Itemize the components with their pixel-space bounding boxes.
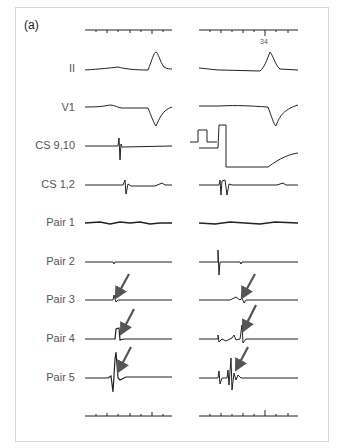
trace-ii-right <box>199 52 298 71</box>
trace-cs12-left <box>85 180 172 194</box>
trace-pair4-right <box>199 325 298 343</box>
arrow-pair3-right <box>244 274 255 294</box>
arrow-pair5-right <box>238 347 248 366</box>
arrow-pair5-left <box>120 347 131 368</box>
trace-pair3-left <box>85 295 172 302</box>
trace-cs910-right <box>190 125 298 167</box>
arrow-pair3-left <box>118 274 129 294</box>
trace-cs910-left <box>85 138 172 160</box>
trace-pair1-right <box>199 222 298 224</box>
arrow-pair4-left <box>123 309 134 330</box>
top-time-scale-left <box>85 30 172 34</box>
trace-ii-left <box>85 52 172 70</box>
top-time-scale-right <box>199 30 298 36</box>
bottom-time-scale-left <box>85 412 172 416</box>
trace-v1-right <box>199 105 298 126</box>
trace-pair3-right <box>199 297 298 303</box>
trace-v1-left <box>85 105 172 126</box>
trace-pair2-right <box>199 250 298 275</box>
trace-pair4-left <box>85 328 172 340</box>
arrow-pair4-right <box>245 305 256 327</box>
trace-pair5-left <box>85 352 172 392</box>
trace-pair1-left <box>85 222 172 224</box>
electrogram-traces <box>0 0 341 448</box>
trace-cs12-right <box>199 180 298 195</box>
bottom-time-scale-right <box>199 410 298 416</box>
trace-pair5-right <box>199 358 298 390</box>
trace-pair2-left <box>85 262 172 264</box>
